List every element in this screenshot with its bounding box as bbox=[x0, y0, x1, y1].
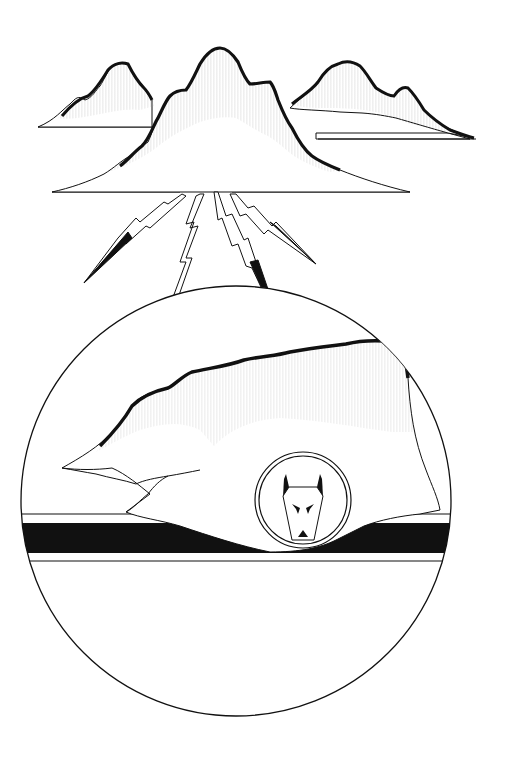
circular-emblem bbox=[20, 286, 451, 716]
illustration-canvas bbox=[0, 0, 506, 764]
wolf-medallion bbox=[255, 452, 351, 548]
illustration-svg bbox=[0, 0, 506, 764]
mountain-range bbox=[38, 48, 476, 192]
